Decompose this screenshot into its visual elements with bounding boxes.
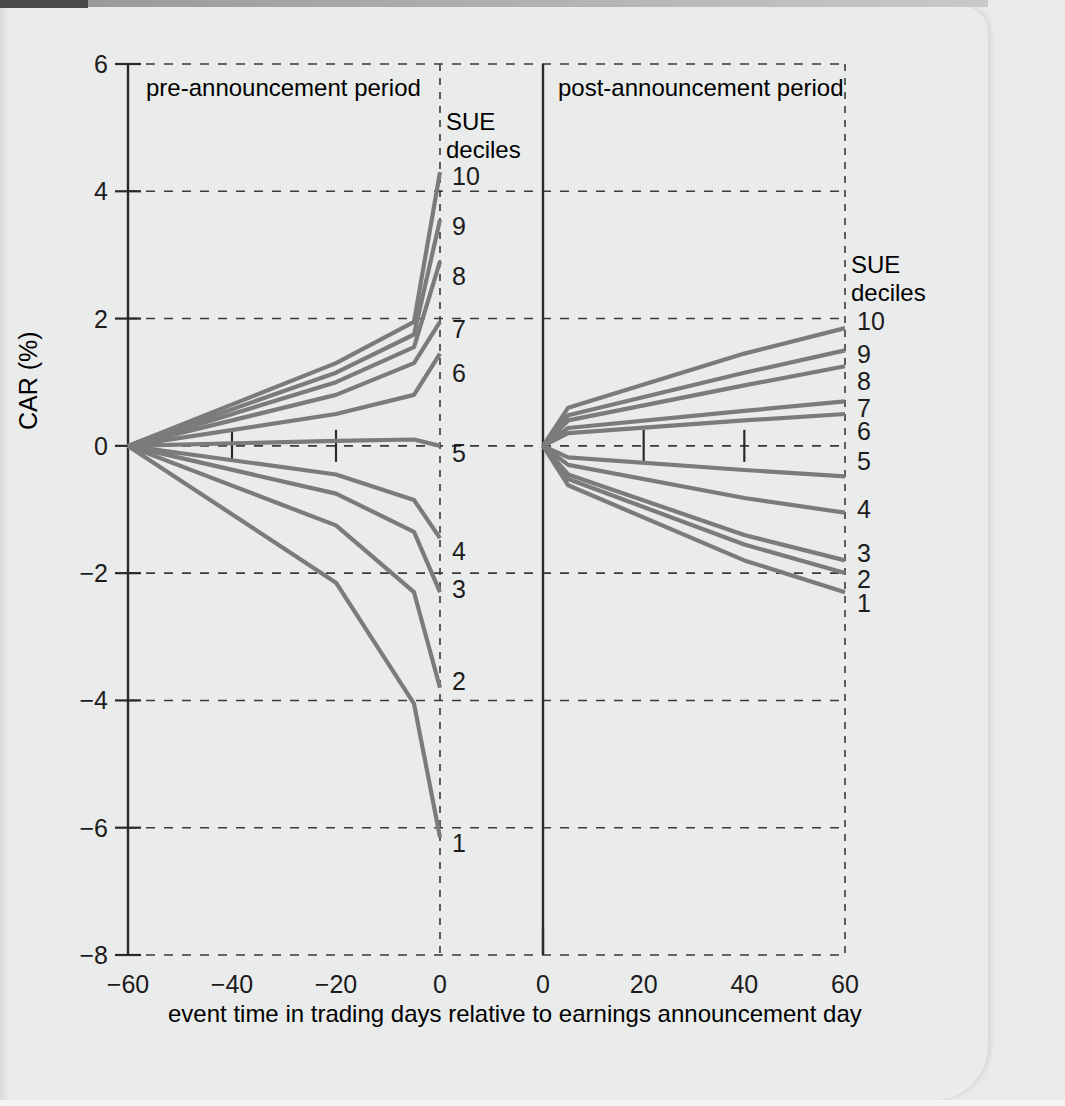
series-line-decile-5 <box>543 446 845 477</box>
labels-layer: 6420−2−4−6−8−60−40−200020406010987654321… <box>79 50 884 998</box>
left-legend-decile-7: 7 <box>452 315 466 343</box>
left-panel-title: pre-announcement period <box>146 74 421 102</box>
x-axis-title: event time in trading days relative to e… <box>168 1000 862 1028</box>
right-legend-title-line1: SUE <box>851 251 900 279</box>
series-line-decile-3 <box>543 446 845 561</box>
series-line-decile-6 <box>543 414 845 446</box>
y-tick-label--6: −6 <box>79 814 108 842</box>
right-legend-decile-1: 1 <box>857 589 871 617</box>
right-panel-title: post-announcement period <box>558 74 844 102</box>
right-legend-decile-8: 8 <box>857 367 871 395</box>
left-legend-decile-1: 1 <box>452 829 466 857</box>
y-tick-label--2: −2 <box>79 559 108 587</box>
right-legend-decile-5: 5 <box>857 447 871 475</box>
left-legend-decile-4: 4 <box>452 537 466 565</box>
x-tick-label-post-20: 20 <box>630 970 658 998</box>
left-legend-decile-9: 9 <box>452 212 466 240</box>
right-legend-decile-9: 9 <box>857 340 871 368</box>
series-line-decile-4 <box>128 446 440 538</box>
x-tick-label-pre--20: −20 <box>315 970 357 998</box>
y-tick-label--4: −4 <box>79 686 108 714</box>
y-tick-label--8: −8 <box>79 941 108 969</box>
left-legend-decile-10: 10 <box>452 162 480 190</box>
left-legend-decile-3: 3 <box>452 575 466 603</box>
y-tick-label-2: 2 <box>94 305 108 333</box>
right-legend-decile-3: 3 <box>857 539 871 567</box>
left-legend-title-line1: SUE <box>446 108 495 136</box>
y-tick-label-6: 6 <box>94 50 108 78</box>
x-tick-label-post-60: 60 <box>831 970 859 998</box>
left-legend-decile-2: 2 <box>452 667 466 695</box>
x-tick-label-pre--60: −60 <box>107 970 149 998</box>
series-layer <box>128 172 845 837</box>
series-line-decile-10 <box>128 172 440 446</box>
y-tick-label-0: 0 <box>94 432 108 460</box>
x-tick-label-post-0: 0 <box>536 970 550 998</box>
left-legend-title-line2: deciles <box>446 136 521 164</box>
grid-layer <box>128 64 845 955</box>
series-line-decile-8 <box>128 261 440 446</box>
left-legend-decile-5: 5 <box>452 439 466 467</box>
left-legend-decile-8: 8 <box>452 262 466 290</box>
left-legend-decile-6: 6 <box>452 359 466 387</box>
right-legend-decile-6: 6 <box>857 417 871 445</box>
right-legend-decile-4: 4 <box>857 495 871 523</box>
x-tick-label-pre-0: 0 <box>433 970 447 998</box>
x-tick-label-pre--40: −40 <box>211 970 253 998</box>
scanned-page: 6420−2−4−6−8−60−40−200020406010987654321… <box>0 0 1065 1106</box>
car-sue-decile-chart: 6420−2−4−6−8−60−40−200020406010987654321… <box>0 0 1065 1106</box>
y-axis-title: CAR (%) <box>14 331 43 430</box>
y-tick-label-4: 4 <box>94 177 108 205</box>
x-tick-label-post-40: 40 <box>730 970 758 998</box>
right-legend-decile-10: 10 <box>857 307 885 335</box>
right-legend-title-line2: deciles <box>851 279 926 307</box>
